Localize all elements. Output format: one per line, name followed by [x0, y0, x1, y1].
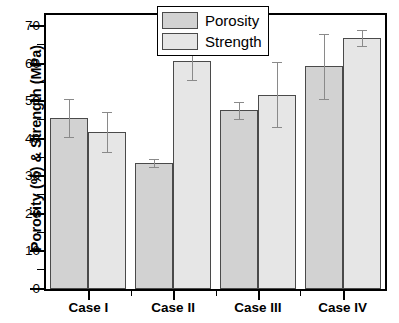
error-bar-line [362, 30, 363, 46]
legend-swatch-strength [162, 33, 198, 50]
x-axis-label-case-iv: Case IV [298, 301, 388, 315]
y-axis-tick-label: 50 [0, 94, 40, 108]
x-axis-tick [88, 291, 90, 300]
y-axis-minor-tick [37, 82, 44, 83]
x-axis-label-case-ii: Case II [128, 301, 218, 315]
x-axis-minor-tick [300, 291, 301, 296]
y-axis-tick-label: 30 [0, 169, 40, 183]
error-bar-line [277, 62, 278, 127]
error-bar-line [239, 102, 240, 119]
error-bar-line [324, 34, 325, 99]
error-bar-cap-upper [319, 34, 329, 35]
error-bar-cap-lower [234, 119, 244, 120]
error-bar-cap-upper [64, 99, 74, 100]
error-bar-line [69, 99, 70, 137]
bar-porosity-case-iv [305, 66, 343, 289]
error-bar-cap-lower [187, 80, 197, 81]
bar-porosity-case-iii [220, 110, 258, 289]
error-bar-cap-lower [64, 137, 74, 138]
y-axis-tick-label: 60 [0, 57, 40, 71]
y-axis-minor-tick [37, 194, 44, 195]
error-bar-cap-upper [357, 30, 367, 31]
chart-legend: Porosity Strength [157, 6, 269, 56]
error-bar-line [107, 112, 108, 153]
legend-item-porosity: Porosity [162, 10, 262, 31]
x-axis-minor-tick [131, 291, 132, 296]
error-bar-cap-upper [272, 62, 282, 63]
y-axis-minor-tick [37, 269, 44, 270]
x-axis-minor-tick [216, 291, 217, 296]
y-axis-minor-tick [37, 232, 44, 233]
error-bar-cap-lower [357, 46, 367, 47]
legend-label-strength: Strength [205, 34, 262, 49]
plot-area [46, 15, 385, 289]
bar-strength-case-iv [343, 38, 381, 289]
bar-porosity-case-i [50, 118, 88, 289]
error-bar-cap-upper [102, 112, 112, 113]
y-axis-tick-label: 70 [0, 19, 40, 33]
legend-label-porosity: Porosity [205, 13, 259, 28]
y-axis-minor-tick [37, 119, 44, 120]
y-axis-tick-label: 40 [0, 132, 40, 146]
error-bar-cap-upper [149, 159, 159, 160]
legend-swatch-porosity [162, 12, 198, 29]
x-axis-tick [173, 291, 175, 300]
error-bar-cap-lower [149, 167, 159, 168]
bar-strength-case-i [88, 132, 126, 289]
y-axis-minor-tick [37, 44, 44, 45]
x-axis-tick [258, 291, 260, 300]
y-axis-minor-tick [37, 157, 44, 158]
y-axis-tick-label: 20 [0, 207, 40, 221]
y-axis-tick-label: 10 [0, 244, 40, 258]
x-axis-tick [343, 291, 345, 300]
bar-chart: Porosity (%) & Strength (MPa) 0102030405… [0, 0, 399, 323]
x-axis-label-case-iii: Case III [213, 301, 303, 315]
error-bar-line [154, 159, 155, 167]
error-bar-cap-lower [102, 152, 112, 153]
error-bar-cap-upper [234, 102, 244, 103]
y-axis-tick-label: 0 [0, 282, 40, 296]
legend-item-strength: Strength [162, 31, 262, 52]
bar-strength-case-ii [173, 61, 211, 289]
x-axis-label-case-i: Case I [43, 301, 133, 315]
error-bar-cap-lower [319, 99, 329, 100]
bar-porosity-case-ii [135, 163, 173, 289]
error-bar-cap-lower [272, 127, 282, 128]
